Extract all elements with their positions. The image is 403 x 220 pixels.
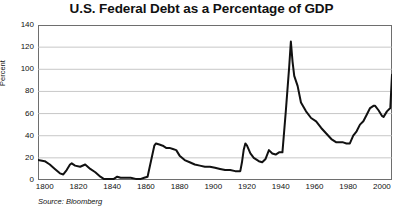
y-tick-label: 140 — [4, 21, 34, 29]
x-tick-label: 1840 — [103, 183, 121, 191]
y-tick-label: 120 — [4, 43, 34, 51]
x-tick-label: 1940 — [272, 183, 290, 191]
y-axis-tick-labels: 020406080100120140 — [0, 0, 34, 220]
y-tick-label: 40 — [4, 132, 34, 140]
x-tick-label: 1800 — [36, 183, 54, 191]
x-tick-label: 1960 — [306, 183, 324, 191]
y-tick-label: 0 — [4, 176, 34, 184]
x-tick-label: 1900 — [204, 183, 222, 191]
y-tick-label: 60 — [4, 110, 34, 118]
x-tick-label: 1920 — [238, 183, 256, 191]
chart-figure: U.S. Federal Debt as a Percentage of GDP… — [0, 0, 403, 220]
debt-series-line — [38, 42, 392, 179]
y-tick-label: 100 — [4, 65, 34, 73]
x-tick-label: 1880 — [171, 183, 189, 191]
x-tick-label: 1820 — [70, 183, 88, 191]
x-axis-tick-labels: 1800182018401860188019001920194019601980… — [38, 183, 392, 195]
plot-area — [38, 25, 392, 180]
y-tick-label: 20 — [4, 154, 34, 162]
debt-line-chart-svg — [38, 25, 392, 180]
grid-lines — [38, 47, 392, 158]
x-tick-label: 1860 — [137, 183, 155, 191]
y-axis-title: Percent — [0, 60, 7, 86]
chart-title: U.S. Federal Debt as a Percentage of GDP — [0, 1, 403, 16]
x-tick-label: 2000 — [373, 183, 391, 191]
source-note: Source: Bloomberg — [38, 197, 102, 206]
y-tick-label: 80 — [4, 87, 34, 95]
x-tick-label: 1980 — [339, 183, 357, 191]
